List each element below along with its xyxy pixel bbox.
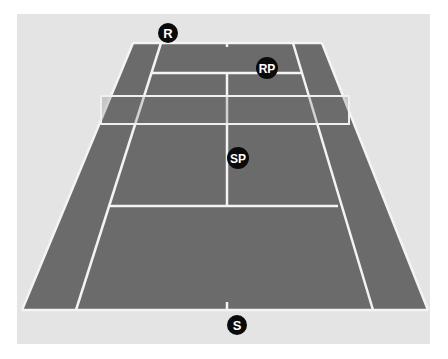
marker-s-label: S [233, 318, 242, 333]
marker-receiver: R [158, 23, 178, 43]
marker-r-label: R [163, 26, 173, 41]
net [101, 96, 349, 124]
marker-sp-label: SP [230, 152, 246, 166]
tennis-court-diagram: R RP SP S [0, 0, 448, 359]
marker-server: S [227, 315, 247, 335]
marker-server-partner: SP [227, 147, 249, 169]
marker-receiver-partner: RP [256, 57, 278, 79]
marker-rp-label: RP [259, 62, 276, 76]
